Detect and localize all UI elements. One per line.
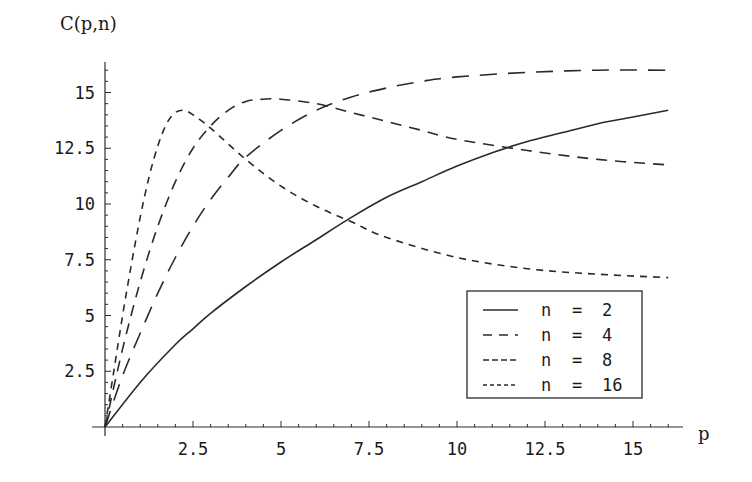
legend-label-var: n (541, 375, 551, 395)
legend-label-val: 16 (602, 375, 622, 395)
x-tick-label: 5 (276, 439, 286, 459)
y-tick-label: 12.5 (54, 138, 95, 158)
legend-label-eq: = (572, 325, 582, 345)
y-tick-label: 15 (75, 83, 95, 103)
x-tick-label: 10 (447, 439, 467, 459)
x-tick-label: 7.5 (354, 439, 385, 459)
legend-label-var: n (541, 325, 551, 345)
legend-label-val: 2 (602, 300, 612, 320)
x-tick-label: 12.5 (525, 439, 566, 459)
x-tick-label: 2.5 (178, 439, 209, 459)
y-tick-label: 2.5 (64, 361, 95, 381)
legend-label-eq: = (572, 350, 582, 370)
y-axis-label: C(p,n) (60, 13, 117, 34)
y-tick-label: 5 (85, 306, 95, 326)
legend-label-var: n (541, 300, 551, 320)
chart: 2.557.51012.5152.557.51012.515 C(p,n) p … (0, 0, 752, 482)
legend-label-val: 8 (602, 350, 612, 370)
y-tick-label: 7.5 (64, 250, 95, 270)
legend-label-val: 4 (602, 325, 612, 345)
legend-label-eq: = (572, 375, 582, 395)
x-tick-label: 15 (623, 439, 643, 459)
y-tick-label: 10 (75, 194, 95, 214)
x-axis-label: p (698, 423, 710, 444)
legend: n=2n=4n=8n=16 (467, 291, 642, 398)
legend-label-eq: = (572, 300, 582, 320)
legend-label-var: n (541, 350, 551, 370)
